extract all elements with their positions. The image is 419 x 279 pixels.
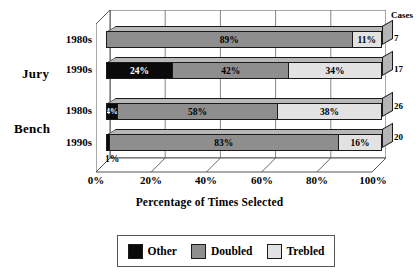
legend-item-doubled: Doubled (191, 244, 253, 259)
bar-segment-other: 24% (106, 62, 172, 79)
bar-segment-doubled: 83% (109, 134, 338, 151)
bar-segment-trebled: 38% (277, 103, 382, 120)
cases-value-jury-1980s: 7 (394, 33, 399, 43)
legend-label-other: Other (148, 245, 177, 257)
category-label-jury-1980s: 1980s (50, 33, 92, 45)
legend-label-doubled: Doubled (211, 245, 253, 257)
bar-bench-1990s: 83% 16% (106, 134, 382, 151)
bar-jury-1990s: 24% 42% 34% (106, 62, 382, 79)
category-label-jury-1990s: 1990s (50, 63, 92, 75)
bar-segment-doubled: 58% (117, 103, 277, 120)
x-axis-title: Percentage of Times Selected (0, 196, 419, 208)
bar-segment-trebled: 11% (352, 31, 382, 48)
legend-swatch-trebled-icon (267, 244, 282, 259)
cases-value-jury-1990s: 17 (394, 64, 403, 74)
bar-jury-1980s: 89% 11% (106, 31, 382, 48)
category-label-bench-1990s: 1990s (50, 136, 92, 148)
category-label-bench-1980s: 1980s (50, 104, 92, 116)
group-label-bench: Bench (14, 121, 50, 137)
bar-segment-other: 4% (106, 103, 117, 120)
legend-swatch-doubled-icon (191, 244, 206, 259)
legend-item-trebled: Trebled (267, 244, 325, 259)
xtick-3: 60% (242, 174, 282, 186)
bar-segment-doubled: 42% (172, 62, 288, 79)
xtick-5: 100% (350, 174, 396, 186)
group-label-jury: Jury (22, 66, 49, 82)
legend-item-other: Other (128, 244, 177, 259)
xtick-1: 20% (131, 174, 171, 186)
xtick-2: 40% (186, 174, 226, 186)
cases-value-bench-1990s: 20 (394, 132, 403, 142)
bar-segment-trebled: 16% (338, 134, 382, 151)
xtick-4: 80% (297, 174, 337, 186)
chart-legend: Other Doubled Trebled (117, 235, 335, 267)
legend-label-trebled: Trebled (287, 245, 325, 257)
bar-label-other-bench-1990s: 1% (105, 154, 119, 164)
bar-segment-doubled: 89% (106, 31, 352, 48)
bar-segment-trebled: 34% (288, 62, 382, 79)
cases-value-bench-1980s: 26 (394, 101, 403, 111)
cases-column-header: Cases (391, 10, 413, 20)
chart-canvas: Jury Bench 1980s 1990s 1980s 1990s (0, 0, 419, 279)
legend-swatch-other-icon (128, 244, 143, 259)
bar-bench-1980s: 4% 58% 38% (106, 103, 382, 120)
xtick-0: 0% (76, 174, 116, 186)
